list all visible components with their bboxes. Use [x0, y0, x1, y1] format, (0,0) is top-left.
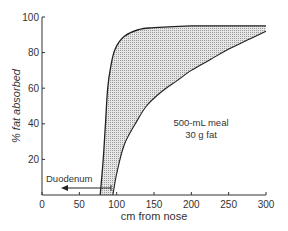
arrow-left-icon: [61, 185, 68, 191]
y-tick-label: 100: [22, 12, 39, 23]
x-tick-label: 50: [74, 199, 86, 210]
x-axis-title: cm from nose: [121, 210, 188, 222]
y-tick-label: 20: [28, 154, 40, 165]
y-tick-label: 80: [28, 47, 40, 58]
absorption-band: [100, 26, 266, 195]
y-tick-label: 60: [28, 83, 40, 94]
meal-volume-label: 500-mL meal: [173, 117, 228, 128]
duodenum-label: Duodenum: [46, 173, 93, 184]
chart: 20406080100 050100150200250300 Duodenum …: [0, 0, 288, 231]
x-tick-label: 100: [108, 199, 125, 210]
x-tick-label: 150: [146, 199, 163, 210]
y-axis-title: % fat absorbed: [10, 68, 22, 143]
x-tick-label: 300: [258, 199, 275, 210]
x-tick-label: 250: [220, 199, 237, 210]
y-tick-label: 40: [28, 118, 40, 129]
x-tick-label: 200: [183, 199, 200, 210]
meal-fat-label: 30 g fat: [185, 129, 217, 140]
x-tick-label: 0: [39, 199, 45, 210]
